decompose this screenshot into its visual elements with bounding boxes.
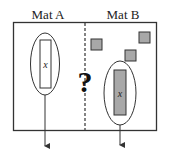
unknown-relation-symbol: ? <box>78 65 93 98</box>
mat-b-unit-tile-1 <box>91 39 102 50</box>
mat-b-label: Mat B <box>107 7 140 22</box>
equation-mat-diagram: Mat A Mat B x ? x <box>0 0 170 154</box>
mat-b-unit-tile-3 <box>125 50 136 61</box>
mat-a-x-label: x <box>42 59 48 70</box>
mat-b-x-label: x <box>117 88 123 99</box>
mat-b-unit-tile-2 <box>139 32 150 43</box>
mat-a-label: Mat A <box>32 7 65 22</box>
